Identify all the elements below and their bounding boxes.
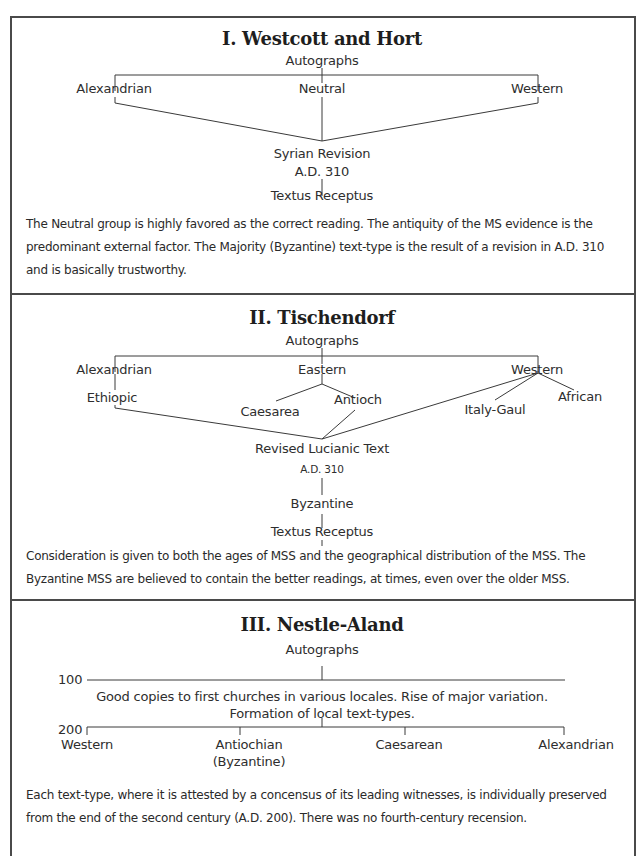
section-title: II. Tischendorf — [249, 307, 395, 328]
node-western: Western — [61, 737, 113, 753]
node-alexandrian: Alexandrian — [76, 362, 151, 378]
timeline-note-line1: Good copies to first churches in various… — [96, 689, 548, 705]
node-caesarean: Caesarean — [375, 737, 442, 753]
node-alexandrian: Alexandrian — [76, 81, 151, 97]
section-title: III. Nestle-Aland — [241, 614, 404, 635]
year-100-label: 100 — [58, 672, 82, 688]
node-alexandrian: Alexandrian — [538, 737, 613, 753]
section-description: Consideration is given to both the ages … — [26, 545, 626, 591]
node-textus-receptus: Textus Receptus — [271, 188, 373, 204]
year-200-label: 200 — [58, 722, 82, 738]
node-autographs: Autographs — [285, 53, 358, 69]
node-antioch: Antioch — [334, 392, 382, 408]
node-antiochian-alt: (Byzantine) — [213, 754, 286, 770]
node-african: African — [558, 389, 602, 405]
node-syrian-revision: Syrian Revision — [274, 146, 371, 162]
section-description: The Neutral group is highly favored as t… — [26, 213, 626, 282]
section-title: I. Westcott and Hort — [222, 28, 422, 49]
node-neutral: Neutral — [299, 81, 346, 97]
node-autographs: Autographs — [285, 642, 358, 658]
node-western: Western — [511, 362, 563, 378]
node-byzantine: Byzantine — [291, 496, 354, 512]
node-revised-lucianic-text: Revised Lucianic Text — [255, 441, 389, 457]
node-ethiopic: Ethiopic — [87, 390, 138, 406]
node-eastern: Eastern — [298, 362, 346, 378]
node-revised-date: A.D. 310 — [300, 461, 344, 477]
node-autographs: Autographs — [285, 333, 358, 349]
section-description: Each text-type, where it is attested by … — [26, 784, 626, 830]
node-western: Western — [511, 81, 563, 97]
node-antiochian: Antiochian — [216, 737, 283, 753]
node-textus-receptus: Textus Receptus — [271, 524, 373, 540]
node-revision-date: A.D. 310 — [295, 164, 349, 180]
timeline-note-line2: Formation of local text-types. — [229, 706, 414, 722]
node-caesarea: Caesarea — [240, 404, 299, 420]
node-italy-gaul: Italy-Gaul — [464, 402, 525, 418]
